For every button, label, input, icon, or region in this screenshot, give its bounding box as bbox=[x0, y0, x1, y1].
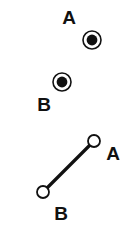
point-a-bottom-hollow-circle-icon[interactable] bbox=[88, 135, 100, 147]
point-b-top-label: B bbox=[37, 94, 51, 115]
point-b-bottom-label: B bbox=[54, 203, 68, 224]
point-b-bottom-hollow-circle-icon[interactable] bbox=[37, 186, 49, 198]
figure-canvas: A B A B bbox=[0, 0, 137, 232]
point-b-top-inner-dot-icon bbox=[57, 77, 68, 88]
point-a-top-label: A bbox=[62, 7, 76, 28]
figure-background bbox=[0, 0, 137, 232]
point-a-bottom-label: A bbox=[106, 143, 120, 164]
point-a-top-inner-dot-icon bbox=[87, 35, 98, 46]
